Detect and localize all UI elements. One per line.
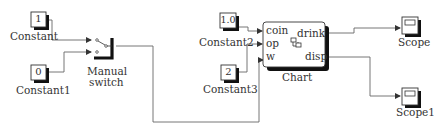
scope-block[interactable] [402, 17, 421, 37]
wire-constant2-to-coin [239, 27, 262, 31]
constant-value: 1 [31, 13, 46, 24]
scope1-block[interactable] [402, 88, 421, 108]
chart-port-coin: coin [266, 25, 288, 36]
constant1-label: Constant1 [16, 85, 71, 96]
constant-label: Constant [10, 31, 58, 42]
wire-drink-to-scope [329, 28, 400, 33]
manual-switch-block[interactable] [94, 38, 112, 58]
wire-constant1-to-switch [49, 52, 91, 72]
chart-port-op: op [266, 38, 279, 49]
constant1-value: 0 [31, 66, 46, 77]
chart-port-drink: drink [297, 28, 325, 39]
scope-label: Scope [398, 37, 430, 48]
chart-label: Chart [282, 72, 312, 83]
manual-switch-label-line2: switch [89, 77, 124, 88]
constant3-label: Constant3 [203, 84, 258, 95]
chart-port-disp: disp [305, 51, 327, 62]
scope1-label: Scope1 [396, 107, 435, 118]
chart-port-w: w [266, 51, 275, 62]
constant2-label: Constant2 [199, 37, 254, 48]
constant2-value: 1.0 [220, 14, 236, 25]
constant3-value: 2 [221, 66, 236, 77]
wire-disp-to-scope1 [329, 57, 400, 96]
